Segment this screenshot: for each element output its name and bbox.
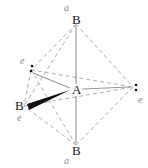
label-axial-top: a: [64, 3, 69, 13]
atom-b-left: B: [15, 99, 24, 112]
label-axial-bottom: a: [64, 156, 69, 166]
wedge-bond: [27, 90, 70, 110]
diagram-canvas: B B B A a a e e e: [0, 0, 148, 168]
atom-a-center: A: [72, 83, 81, 96]
label-equatorial-right: e: [138, 95, 142, 105]
atom-b-bottom: B: [72, 144, 81, 157]
atom-b-top: B: [72, 13, 81, 26]
label-equatorial-upper-left: e: [20, 56, 24, 66]
label-equatorial-lower-left: e: [17, 113, 21, 123]
